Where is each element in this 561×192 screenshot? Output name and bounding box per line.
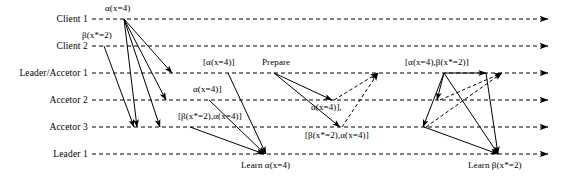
messages-group	[104, 19, 502, 154]
sequence-diagram: Client 1Client 2Leader/Accetor 1Accetor …	[0, 0, 561, 192]
annotation-alpha-beta-accept: [α(x=4),β(x*=2)]	[405, 57, 469, 67]
message-arrow-m20	[440, 73, 502, 100]
lane-label-leadacc1: Leader/Accetor 1	[19, 68, 88, 78]
annotation-beta-alpha-reply-acc3: [β(x*=2),α(x=4)]	[305, 130, 369, 140]
annotation-beta-alpha-acc3: [β(x*=2),α(x=4)]	[178, 111, 242, 121]
message-arrow-m9	[274, 73, 332, 100]
lane-label-leader1: Leader 1	[53, 149, 88, 159]
annotation-alpha-reply-acc2: α(x=4)],	[311, 102, 342, 112]
annotation-beta-client2: β(x*=2)	[82, 30, 112, 40]
message-arrow-m17	[486, 73, 498, 154]
message-arrow-m18	[424, 127, 498, 154]
lane-label-acc3: Accetor 3	[49, 122, 88, 132]
lane-label-client1: Client 1	[56, 14, 88, 24]
annotation-learn-beta: Learn β(x*=2)	[468, 160, 522, 170]
message-arrow-m16	[444, 73, 498, 154]
lane-label-acc2: Accetor 2	[49, 95, 88, 105]
message-arrow-m8	[190, 127, 264, 154]
message-arrow-m11	[334, 73, 378, 100]
annotation-prepare: Prepare	[262, 57, 290, 67]
lane-label-client2: Client 2	[56, 41, 88, 51]
annotation-alpha-client1: α(x=4)	[105, 3, 130, 13]
message-arrow-m5	[104, 46, 134, 127]
annotation-alpha-acc2: α(x=4)]	[193, 84, 221, 94]
annotation-alpha-bracket-leadacc1: [α(x=4)]	[203, 57, 235, 67]
annotation-learn-alpha: Learn α(x=4)	[241, 160, 290, 170]
